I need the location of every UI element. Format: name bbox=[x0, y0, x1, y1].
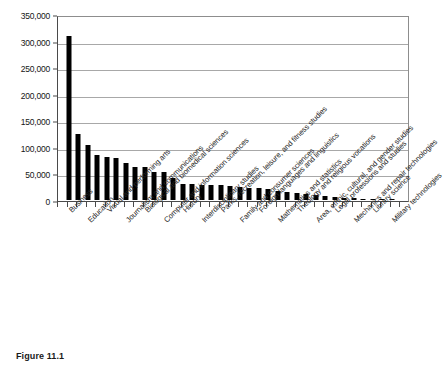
y-axis-tick-label: 350,000 bbox=[21, 11, 50, 21]
bar-slot bbox=[92, 18, 102, 200]
x-axis-category-labels: BusinessEducationVisual and performing a… bbox=[0, 206, 419, 346]
bar-slot bbox=[235, 18, 245, 200]
bar-slot bbox=[349, 18, 359, 200]
y-axis-tick-label: 200,000 bbox=[21, 91, 50, 101]
bar bbox=[95, 155, 100, 200]
bar bbox=[285, 192, 290, 200]
bar-slot bbox=[273, 18, 283, 200]
bar bbox=[209, 185, 214, 200]
y-axis: 050,000100,000150,000200,000250,000300,0… bbox=[0, 0, 57, 202]
bar-slot bbox=[197, 18, 207, 200]
y-axis-tick-label: 250,000 bbox=[21, 64, 50, 74]
bar-slot bbox=[159, 18, 169, 200]
bar bbox=[66, 36, 71, 200]
bar-slot bbox=[73, 18, 83, 200]
y-axis-tick-label: 150,000 bbox=[21, 117, 50, 127]
bar bbox=[104, 157, 109, 200]
bar bbox=[323, 196, 328, 200]
figure-caption: Figure 11.1 bbox=[16, 351, 64, 361]
bar-slot bbox=[102, 18, 112, 200]
bar-series bbox=[59, 18, 407, 200]
bar-slot bbox=[83, 18, 93, 200]
y-axis-tick-label: 300,000 bbox=[21, 38, 50, 48]
bar-slot bbox=[64, 18, 74, 200]
bar-slot bbox=[111, 18, 121, 200]
bar bbox=[361, 199, 366, 200]
bar bbox=[76, 134, 81, 200]
y-axis-tick-label: 100,000 bbox=[21, 144, 50, 154]
bar-slot bbox=[225, 18, 235, 200]
bar-slot bbox=[121, 18, 131, 200]
bar-slot bbox=[387, 18, 397, 200]
y-axis-tick-label: 50,000 bbox=[25, 170, 50, 180]
